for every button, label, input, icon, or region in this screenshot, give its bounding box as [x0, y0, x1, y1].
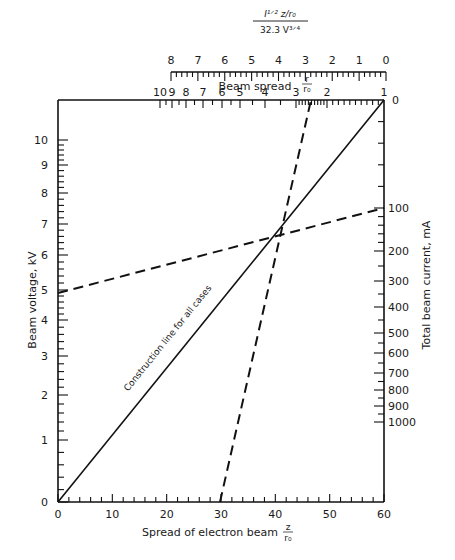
tick-label: 30: [214, 508, 228, 521]
tick-label: 7: [41, 218, 48, 231]
nomogram: 876543210 I¹ᐟ² z/r₀ 32.3 V³ᐟ⁴ Beam sprea…: [0, 0, 455, 560]
tick-label: 600: [388, 347, 409, 360]
tick-label: 7: [194, 54, 201, 67]
tick-label: 10: [34, 134, 48, 147]
tick-label: 400: [388, 301, 409, 314]
beam-spread-frac-den: r₀: [303, 84, 311, 94]
right-axis-tick-labels: 01002003004005006007008009001000: [388, 94, 416, 429]
tick-label: 0: [41, 496, 48, 509]
tick-label: 8: [168, 54, 175, 67]
tick-label: 8: [183, 86, 190, 99]
tick-label: 5: [248, 54, 255, 67]
tick-label: 7: [200, 86, 207, 99]
bottom-axis-title: Spread of electron beam: [142, 526, 278, 539]
tick-label: 4: [275, 54, 282, 67]
top-formula-denominator: 32.3 V³ᐟ⁴: [260, 25, 300, 35]
tick-label: 10: [153, 86, 167, 99]
tick-label: 4: [41, 314, 48, 327]
tick-label: 9: [41, 159, 48, 172]
tick-label: 40: [268, 508, 282, 521]
tick-label: 1: [41, 434, 48, 447]
beam-spread-ticks: [160, 100, 378, 108]
tick-label: 900: [388, 400, 409, 413]
tick-label: 8: [41, 187, 48, 200]
top-formula-numerator: I¹ᐟ² z/r₀: [264, 9, 296, 19]
tick-label: 6: [221, 54, 228, 67]
tick-label: 0: [55, 508, 62, 521]
tick-label: 50: [323, 508, 337, 521]
right-axis-ticks: [374, 122, 384, 422]
tick-label: 200: [388, 245, 409, 258]
tick-label: 2: [41, 389, 48, 402]
tick-label: 6: [41, 249, 48, 262]
dashed-spread-line: [220, 100, 311, 502]
construction-line: [58, 100, 384, 502]
tick-label: 4: [262, 86, 269, 99]
beam-spread-frac-num: r: [305, 74, 309, 84]
tick-label: 0: [392, 94, 399, 107]
tick-label: 60: [377, 508, 391, 521]
tick-label: 1: [356, 54, 363, 67]
tick-label: 9: [169, 86, 176, 99]
tick-label: 300: [388, 275, 409, 288]
beam-spread-label: Beam spread: [219, 80, 292, 93]
bottom-frac-den: r₀: [284, 533, 292, 543]
construction-line-label: Construction line for all cases: [122, 283, 214, 393]
tick-label: 100: [388, 202, 409, 215]
tick-label: 3: [293, 86, 300, 99]
tick-label: 2: [324, 86, 331, 99]
tick-label: 5: [41, 284, 48, 297]
tick-label: 800: [388, 384, 409, 397]
tick-label: 0: [383, 54, 390, 67]
tick-label: 2: [329, 54, 336, 67]
bottom-frac-num: z: [286, 522, 291, 532]
tick-label: 5: [237, 86, 244, 99]
tick-label: 20: [160, 508, 174, 521]
left-axis-title: Beam voltage, kV: [26, 251, 39, 349]
tick-label: 6: [219, 86, 226, 99]
tick-label: 700: [388, 367, 409, 380]
tick-label: 1: [381, 86, 388, 99]
tick-label: 1000: [388, 416, 416, 429]
top-outer-tick-labels: 876543210: [168, 54, 390, 67]
tick-label: 3: [41, 350, 48, 363]
right-axis-title: Total beam current, mA: [420, 220, 433, 350]
tick-label: 3: [302, 54, 309, 67]
left-axis-ticks: [58, 140, 68, 502]
bottom-axis-tick-labels: 0102030405060: [55, 508, 392, 521]
tick-label: 10: [105, 508, 119, 521]
dashed-voltage-current-line: [58, 208, 384, 293]
tick-label: 500: [388, 327, 409, 340]
